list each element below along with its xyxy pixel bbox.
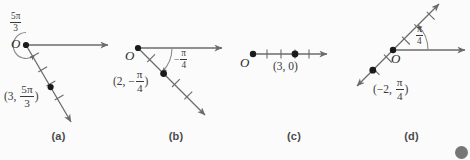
coordinate-label-a: (3, 5π 3 )	[4, 85, 39, 110]
angle-numerator-a: 5π	[10, 12, 21, 22]
origin-label-c: O	[240, 56, 249, 69]
angle-numerator-b: π	[180, 49, 187, 59]
coord-close-b: )	[145, 75, 149, 87]
origin-point	[135, 45, 141, 51]
coord-sign-b: −	[128, 75, 135, 87]
coord-comma-a: ,	[14, 90, 17, 102]
plotted-point	[369, 67, 376, 74]
ray-tick-marks	[372, 12, 435, 75]
plotted-point	[48, 84, 54, 90]
scan-artifact-blob	[455, 146, 468, 159]
coord-close-c: )	[294, 60, 298, 72]
panel-caption-d: (d)	[353, 130, 470, 142]
coord-comma-b: ,	[123, 75, 126, 87]
coord-close-a: )	[35, 90, 39, 102]
coord-denominator-b: 4	[136, 81, 144, 95]
coord-numerator-d: π	[396, 77, 404, 89]
angle-sign-b: −	[174, 55, 179, 65]
angle-label-d: π 4	[415, 26, 424, 47]
panel-c: O (3, 0) (c)	[235, 0, 353, 160]
angle-denominator-d: 4	[416, 35, 423, 46]
coord-comma-d: ,	[389, 83, 392, 95]
angle-numerator-d: π	[416, 25, 423, 35]
panel-caption-a: (a)	[0, 130, 117, 142]
panel-d: π 4 O (−2, π 4 ) (d)	[353, 0, 470, 160]
plotted-point	[160, 70, 167, 77]
plotted-point	[292, 51, 299, 58]
panel-caption-b: (b)	[117, 130, 235, 142]
origin-label-b: O	[125, 49, 134, 62]
angle-denominator-b: 4	[180, 59, 187, 70]
angle-denominator-a: 3	[10, 22, 21, 33]
coordinate-label-c: (3, 0)	[273, 61, 298, 73]
panel-d-graphic	[353, 0, 470, 130]
panel-caption-c: (c)	[235, 130, 353, 142]
coord-numerator-a: 5π	[20, 84, 33, 96]
origin-point	[23, 42, 29, 48]
polar-coordinate-figure: 5π 3 O (3, 5π 3 ) (a)	[0, 0, 470, 160]
coord-comma-c: ,	[283, 60, 286, 72]
coord-denominator-d: 4	[396, 89, 404, 103]
coord-radius-d: −2	[377, 83, 389, 95]
origin-label-d: O	[391, 52, 400, 65]
coord-numerator-b: π	[136, 69, 144, 81]
angle-label-b: − π 4	[174, 50, 188, 71]
origin-label-a: O	[11, 37, 20, 50]
rotation-arc	[162, 48, 172, 72]
angle-label-a: 5π 3	[9, 13, 22, 34]
coordinate-label-d: (−2, π 4 )	[373, 78, 408, 103]
panel-b: − π 4 O (2, − π 4 ) (b)	[117, 0, 235, 160]
coordinate-label-b: (2, − π 4 )	[113, 70, 148, 95]
coord-close-d: )	[405, 83, 409, 95]
coord-denominator-a: 3	[20, 96, 33, 110]
origin-point	[250, 51, 256, 57]
panel-a: 5π 3 O (3, 5π 3 ) (a)	[0, 0, 117, 160]
